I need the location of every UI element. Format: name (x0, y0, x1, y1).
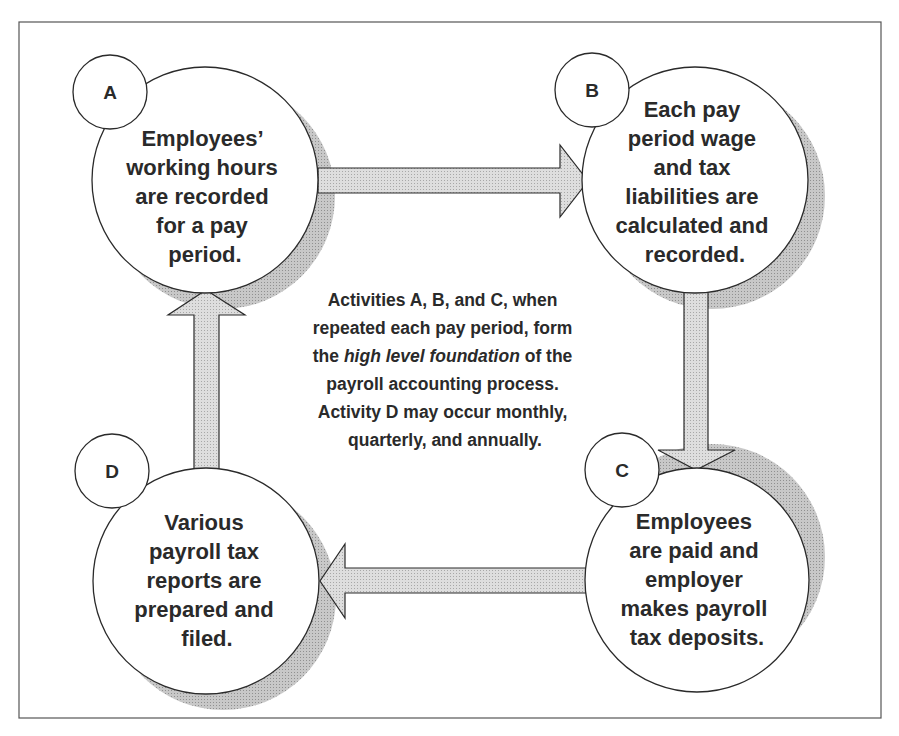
payroll-cycle-diagram: A Employees’ working hours are recorded … (0, 0, 899, 736)
node-c-label: C (615, 460, 629, 481)
node-b-label: B (585, 80, 599, 101)
emphasis-text: high level foundation (344, 346, 520, 366)
node-a-label: A (103, 82, 117, 103)
node-d-label: D (105, 461, 119, 482)
